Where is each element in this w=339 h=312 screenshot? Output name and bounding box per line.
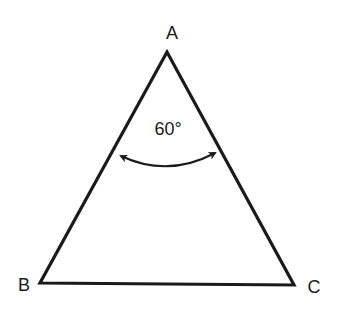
- angle-label: 60°: [154, 119, 181, 139]
- vertex-label-c: C: [308, 277, 321, 297]
- triangle-diagram: A B C 60°: [0, 0, 339, 312]
- angle-arc-arrow: [121, 153, 215, 166]
- vertex-label-b: B: [18, 275, 30, 295]
- vertex-label-a: A: [166, 23, 178, 43]
- triangle-abc: [40, 52, 294, 285]
